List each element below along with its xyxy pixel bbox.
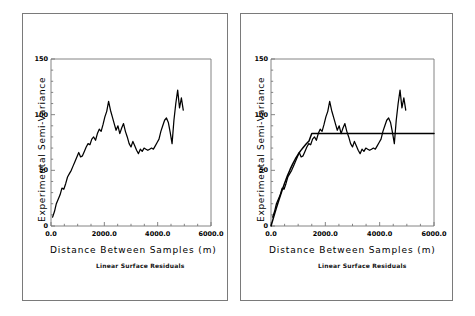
y-axis-title-left: Experimental Semi-Variance (37, 77, 47, 222)
y-axis-title-right: Experimental Semi-Variance (256, 77, 266, 222)
x-tick-label: 0.0 (45, 230, 57, 238)
panel-fitted-variogram: 0501001500.02000.04000.06000.0 (240, 13, 453, 301)
x-tick-label: 4000.0 (367, 230, 392, 238)
x-tick-label: 2000.0 (313, 230, 338, 238)
y-tick-label: 0 (254, 222, 268, 230)
variogram-figure: 0501001500.02000.04000.06000.0 050100150… (0, 0, 475, 316)
y-tick-label: 150 (254, 55, 268, 63)
caption-right: Linear Surface Residuals (318, 262, 407, 269)
x-tick-label: 2000.0 (92, 230, 117, 238)
x-tick-label: 6000.0 (198, 230, 223, 238)
y-tick-label: 150 (34, 55, 48, 63)
y-tick-label: 0 (34, 222, 48, 230)
caption-left: Linear Surface Residuals (96, 262, 185, 269)
x-tick-label: 0.0 (265, 230, 277, 238)
plot-area-left (23, 14, 229, 302)
plot-area-right (241, 14, 454, 302)
x-axis-title-left: Distance Between Samples (m) (50, 245, 217, 255)
x-axis-title-right: Distance Between Samples (m) (269, 245, 436, 255)
panel-experimental-variogram: 0501001500.02000.04000.06000.0 (22, 13, 228, 301)
x-tick-label: 4000.0 (145, 230, 170, 238)
x-tick-label: 6000.0 (421, 230, 446, 238)
